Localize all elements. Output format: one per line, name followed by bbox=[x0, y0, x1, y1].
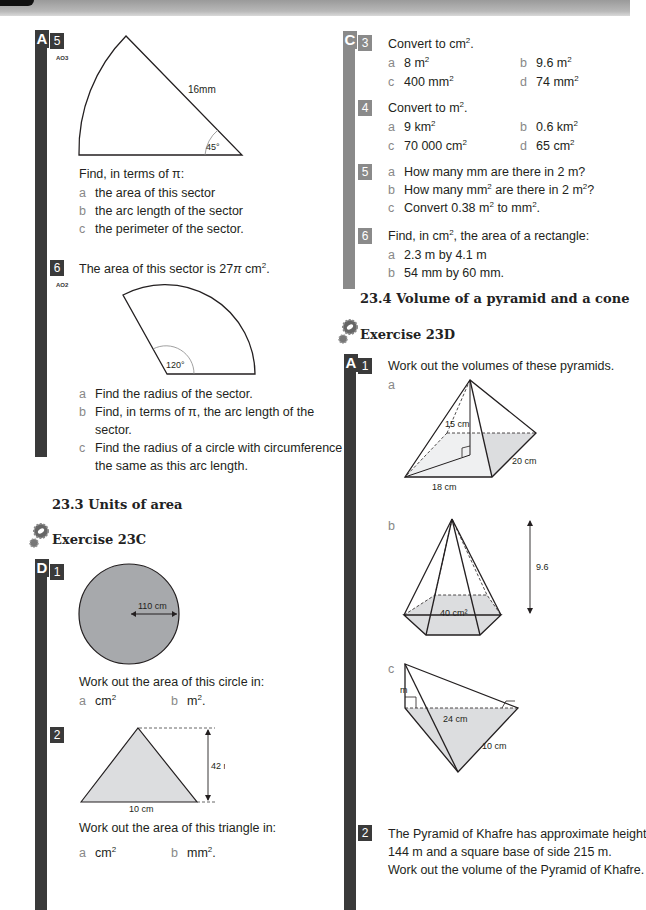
q4-part-b: b0.6 km2 bbox=[520, 119, 578, 135]
question-number-2: 2 bbox=[50, 727, 64, 743]
base-label: 10 cm bbox=[129, 804, 154, 812]
level-badge-c: C bbox=[343, 31, 357, 49]
q4-part-c: c70 000 cm2 bbox=[388, 138, 467, 154]
q6-part-b-cont: sector. bbox=[95, 422, 132, 438]
triangular-pyramid-diagram: 8 cm 24 cm 10 cm bbox=[400, 662, 550, 777]
rectangular-pyramid-diagram: 15 cm 20 cm 18 cm bbox=[400, 375, 550, 490]
question-number-5-right: 5 bbox=[358, 164, 372, 180]
sector-45-diagram: 45° 16mm bbox=[75, 30, 255, 165]
exercise-gear-icon bbox=[338, 318, 360, 346]
q4-part-a: a9 km2 bbox=[388, 119, 436, 135]
pyramid-b-label: b bbox=[388, 518, 395, 534]
sector-120-diagram: 120° bbox=[115, 280, 265, 380]
r-q6-part-b: b54 mm by 60 mm. bbox=[388, 265, 504, 281]
q3-part-b: b9.6 m2 bbox=[520, 55, 572, 71]
question-number-6: 6 bbox=[50, 260, 64, 276]
ao-tag: AO3 bbox=[56, 55, 68, 61]
question-number-4: 4 bbox=[358, 100, 372, 116]
pyramid-c-label: c bbox=[388, 661, 394, 677]
d-q2-line-3: Work out the volume of the Pyramid of Kh… bbox=[388, 862, 644, 878]
q4-prompt: Convert to m2. bbox=[388, 100, 468, 116]
c-q1-part-a: acm2 bbox=[79, 693, 116, 709]
svg-text:9.6 cm: 9.6 cm bbox=[536, 562, 550, 572]
section-heading-23-4: 23.4 Volume of a pyramid and a cone bbox=[360, 291, 629, 306]
angle-label: 45° bbox=[206, 142, 220, 152]
r-q6-prompt: Find, in cm2, the area of a rectangle: bbox=[388, 228, 589, 244]
q6-part-c: cFind the radius of a circle with circum… bbox=[79, 440, 342, 456]
q6-part-c-cont: the same as this arc length. bbox=[95, 458, 248, 474]
difficulty-bar-a bbox=[35, 30, 47, 457]
height-label: 42 mm bbox=[211, 761, 225, 771]
question-number-6-right: 6 bbox=[358, 228, 372, 244]
level-badge-a: A bbox=[35, 30, 49, 48]
svg-text:18 cm: 18 cm bbox=[432, 482, 457, 490]
exercise-heading-23c: Exercise 23C bbox=[52, 532, 146, 547]
question-number-5: 5 bbox=[50, 33, 64, 49]
q3-part-a: a8 m2 bbox=[388, 55, 429, 71]
r-q6-part-a: a2.3 m by 4.1 m bbox=[388, 247, 487, 263]
svg-text:10 cm: 10 cm bbox=[482, 741, 507, 751]
question-number-1: 1 bbox=[50, 564, 64, 580]
angle-label: 120° bbox=[166, 360, 185, 370]
hexagonal-pyramid-diagram: 9.6 cm 40 cm² bbox=[400, 515, 550, 640]
level-badge-a-right: A bbox=[344, 354, 358, 372]
q5-part-b: bthe arc length of the sector bbox=[79, 203, 243, 219]
q3-prompt: Convert to cm2. bbox=[388, 36, 474, 52]
triangle-diagram: 42 mm 10 cm bbox=[75, 722, 225, 812]
question-number-1-right: 1 bbox=[358, 358, 372, 374]
r-q5-part-c: cConvert 0.38 m2 to mm2. bbox=[388, 200, 540, 216]
d-q1-prompt: Work out the volumes of these pyramids. bbox=[388, 358, 614, 374]
r-q5-part-a: aHow many mm are there in 2 m? bbox=[388, 164, 585, 180]
question-number-3: 3 bbox=[358, 35, 372, 51]
q6-part-b: bFind, in terms of π, the arc length of … bbox=[79, 404, 314, 420]
circle-diagram: 110 cm bbox=[75, 560, 185, 670]
svg-text:15 cm: 15 cm bbox=[445, 419, 470, 429]
d-q2-line-1: The Pyramid of Khafre has approximate he… bbox=[388, 826, 646, 842]
radius-label: 16mm bbox=[188, 84, 216, 95]
svg-text:8 cm: 8 cm bbox=[400, 685, 408, 695]
q6-prompt: The area of this sector is 27π cm2. bbox=[79, 261, 270, 277]
question-number-2-right: 2 bbox=[358, 825, 372, 841]
svg-text:40 cm²: 40 cm² bbox=[440, 608, 468, 618]
exercise-gear-icon bbox=[29, 522, 51, 550]
header-tab bbox=[0, 0, 34, 6]
svg-text:24 cm: 24 cm bbox=[443, 714, 468, 724]
d-q2-line-2: 144 m and a square base of side 215 m. bbox=[388, 844, 612, 860]
difficulty-bar-a-right bbox=[344, 354, 356, 910]
c-q2-part-a: acm2 bbox=[79, 845, 116, 861]
difficulty-bar-c bbox=[343, 31, 355, 289]
r-q5-part-b: bHow many mm2 are there in 2 m2? bbox=[388, 182, 594, 198]
pyramid-a-label: a bbox=[388, 377, 395, 393]
q3-part-d: d74 mm2 bbox=[520, 74, 579, 90]
q5-part-a: athe area of this sector bbox=[79, 185, 215, 201]
q5-prompt: Find, in terms of π: bbox=[79, 166, 184, 182]
q3-part-c: c400 mm2 bbox=[388, 74, 454, 90]
q6-part-a: aFind the radius of the sector. bbox=[79, 386, 253, 402]
radius-label: 110 cm bbox=[138, 601, 167, 611]
exercise-heading-23d: Exercise 23D bbox=[360, 327, 455, 342]
q5-part-c: cthe perimeter of the sector. bbox=[79, 221, 244, 237]
c-q2-prompt: Work out the area of this triangle in: bbox=[79, 820, 276, 836]
level-badge-d: D bbox=[35, 559, 49, 577]
c-q2-part-b: bmm2. bbox=[171, 845, 216, 861]
page-header-strip bbox=[0, 0, 630, 16]
c-q1-prompt: Work out the area of this circle in: bbox=[79, 674, 264, 690]
q4-part-d: d65 cm2 bbox=[520, 138, 575, 154]
ao-tag: AO2 bbox=[56, 282, 68, 288]
section-heading-23-3: 23.3 Units of area bbox=[52, 497, 183, 512]
svg-text:20 cm: 20 cm bbox=[512, 456, 537, 466]
difficulty-bar-d bbox=[35, 559, 47, 910]
c-q1-part-b: bm2. bbox=[171, 693, 205, 709]
